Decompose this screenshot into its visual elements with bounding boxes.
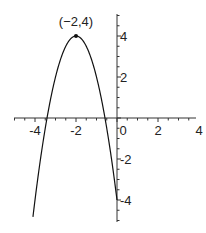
y-tick-label: 4 <box>120 29 127 44</box>
x-tick-label: -2 <box>70 123 82 138</box>
x-tick-label: -4 <box>29 123 41 138</box>
y-tick-label: -4 <box>120 193 132 208</box>
x-tick-label: 4 <box>195 123 202 138</box>
vertex-label: (−2,4) <box>59 14 93 29</box>
vertex-point <box>74 34 78 38</box>
y-tick-label: 2 <box>120 70 127 85</box>
y-tick-label: -2 <box>120 152 132 167</box>
parabola-plot: -4-2024-4-224 (−2,4) <box>0 0 206 233</box>
vertex-annotation: (−2,4) <box>59 14 93 38</box>
x-tick-label: 0 <box>119 123 126 138</box>
x-tick-label: 2 <box>154 123 161 138</box>
